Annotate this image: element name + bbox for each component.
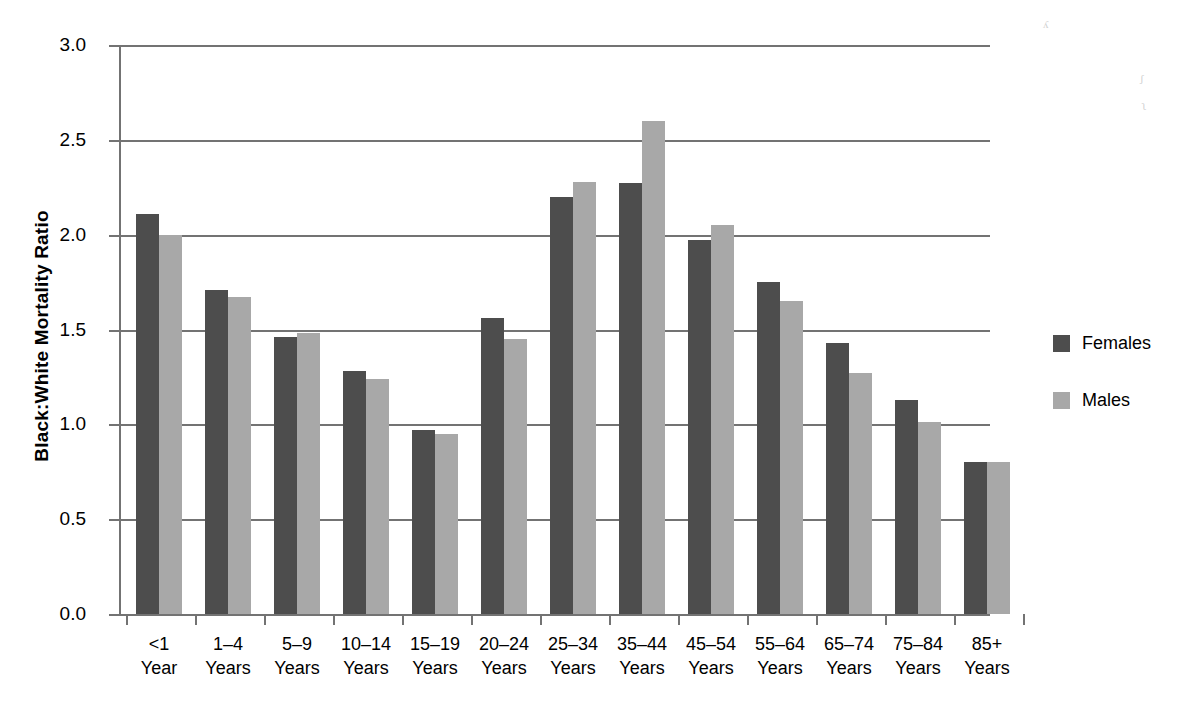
bar-males — [297, 333, 320, 614]
y-tick-label: 0.0 — [16, 604, 86, 623]
bar-females — [895, 400, 918, 614]
scan-speck: ʅ — [1142, 100, 1147, 112]
bar-males — [435, 434, 458, 614]
bar-group — [412, 45, 458, 614]
bar-females — [826, 343, 849, 614]
bar-males — [228, 297, 251, 614]
y-axis-line — [119, 45, 121, 614]
bar-group — [964, 45, 1010, 614]
bar-males — [504, 339, 527, 614]
bar-group — [205, 45, 251, 614]
x-tick-label-line: 85+ — [943, 632, 1031, 656]
x-tick-mark — [195, 614, 197, 625]
bar-females — [481, 318, 504, 614]
bar-males — [573, 182, 596, 614]
bar-females — [964, 462, 987, 614]
bar-females — [343, 371, 366, 614]
y-tick-label: 1.0 — [16, 414, 86, 433]
bar-males — [849, 373, 872, 614]
x-tick-mark — [471, 614, 473, 625]
x-tick-mark — [885, 614, 887, 625]
chart-figure: Black:White Mortality Ratio 0.00.51.01.5… — [0, 0, 1194, 709]
x-tick-mark — [333, 614, 335, 625]
y-tick-mark — [109, 424, 119, 426]
bar-males — [159, 235, 182, 614]
bar-females — [619, 183, 642, 614]
y-tick-mark — [109, 140, 119, 142]
legend-label-males: Males — [1082, 390, 1130, 411]
bar-males — [918, 422, 941, 614]
bar-group — [136, 45, 182, 614]
x-tick-mark — [954, 614, 956, 625]
legend: Females Males — [1053, 331, 1151, 445]
legend-label-females: Females — [1082, 333, 1151, 354]
bar-males — [642, 121, 665, 614]
bar-males — [366, 379, 389, 614]
bar-group — [274, 45, 320, 614]
bar-group — [619, 45, 665, 614]
scan-speck: ʎ — [1043, 18, 1049, 30]
bar-females — [205, 290, 228, 614]
y-tick-mark — [109, 235, 119, 237]
x-tick-mark — [609, 614, 611, 625]
y-tick-mark — [109, 45, 119, 47]
bar-group — [895, 45, 941, 614]
bar-females — [136, 214, 159, 614]
x-tick-mark — [402, 614, 404, 625]
bar-group — [550, 45, 596, 614]
bar-females — [274, 337, 297, 614]
x-tick-label: 85+Years — [943, 632, 1031, 680]
x-tick-label-line: Years — [943, 656, 1031, 680]
bar-females — [412, 430, 435, 614]
x-tick-mark — [816, 614, 818, 625]
y-tick-label: 2.0 — [16, 225, 86, 244]
legend-swatch-males — [1053, 392, 1070, 409]
y-tick-label: 1.5 — [16, 320, 86, 339]
scan-speck: ʃ — [1140, 72, 1144, 84]
y-tick-label: 0.5 — [16, 509, 86, 528]
x-tick-mark — [264, 614, 266, 625]
bar-group — [688, 45, 734, 614]
x-axis-line — [119, 614, 990, 616]
x-tick-mark — [678, 614, 680, 625]
bar-females — [688, 240, 711, 614]
y-tick-mark — [109, 614, 119, 616]
x-tick-mark — [747, 614, 749, 625]
plot-area — [119, 45, 990, 614]
bar-group — [826, 45, 872, 614]
y-tick-mark — [109, 519, 119, 521]
y-tick-label: 2.5 — [16, 130, 86, 149]
bar-males — [987, 462, 1010, 614]
legend-item-males: Males — [1053, 388, 1151, 412]
bar-group — [481, 45, 527, 614]
legend-swatch-females — [1053, 335, 1070, 352]
bar-group — [757, 45, 803, 614]
x-tick-mark — [540, 614, 542, 625]
bar-females — [550, 197, 573, 614]
bar-males — [711, 225, 734, 614]
legend-item-females: Females — [1053, 331, 1151, 355]
bar-females — [757, 282, 780, 614]
x-tick-mark — [126, 614, 128, 625]
bar-group — [343, 45, 389, 614]
y-tick-mark — [109, 330, 119, 332]
y-tick-label: 3.0 — [16, 35, 86, 54]
x-tick-mark — [1023, 614, 1025, 625]
bar-males — [780, 301, 803, 614]
